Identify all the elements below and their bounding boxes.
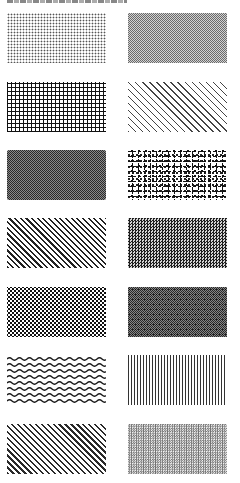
- swatch-square-grid: [7, 82, 106, 132]
- swatch-gravel-blobs: [128, 150, 227, 200]
- swatch-fine-dots: [7, 13, 106, 63]
- swatch-wavy-lines: [7, 355, 106, 405]
- swatch-sparse-diagonal: [128, 82, 227, 132]
- swatch-grey-stipple: [128, 13, 227, 63]
- wavy-lines-graphic: [7, 355, 106, 405]
- swatch-random-noise: [128, 287, 227, 337]
- swatch-large-dots: [7, 287, 106, 337]
- swatch-dense-diagonal: [7, 218, 106, 268]
- caption-text-truncated: [7, 0, 127, 3]
- swatch-dark-checker: [7, 150, 106, 200]
- swatch-diagonal-lines: [7, 424, 106, 474]
- swatch-fine-dot-grid: [128, 424, 227, 474]
- swatch-crosshatch-checker: [128, 218, 227, 268]
- swatch-vertical-lines: [128, 355, 227, 405]
